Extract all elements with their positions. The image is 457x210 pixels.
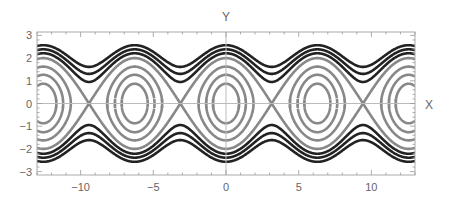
y-tick-label: −3 bbox=[19, 166, 32, 178]
y-tick-label: 3 bbox=[26, 29, 32, 41]
y-tick-label: 2 bbox=[26, 52, 32, 64]
x-tick-label: −10 bbox=[71, 181, 90, 193]
y-tick-label: −1 bbox=[19, 120, 32, 132]
y-tick-label: 0 bbox=[26, 98, 32, 110]
y-tick-label: −2 bbox=[19, 143, 32, 155]
x-tick-label: −5 bbox=[147, 181, 160, 193]
y-axis-label: Y bbox=[222, 10, 230, 24]
x-tick-label: 5 bbox=[296, 181, 302, 193]
phase-portrait-chart: −10−50510 −3−2−10123 Y X bbox=[0, 0, 457, 210]
axes-lines bbox=[37, 32, 415, 175]
x-tick-label: 0 bbox=[223, 181, 229, 193]
x-tick-label: 10 bbox=[365, 181, 377, 193]
x-axis-label: X bbox=[425, 98, 433, 112]
y-tick-labels: −3−2−10123 bbox=[19, 29, 32, 177]
x-tick-labels: −10−50510 bbox=[71, 181, 377, 193]
y-tick-label: 1 bbox=[26, 75, 32, 87]
